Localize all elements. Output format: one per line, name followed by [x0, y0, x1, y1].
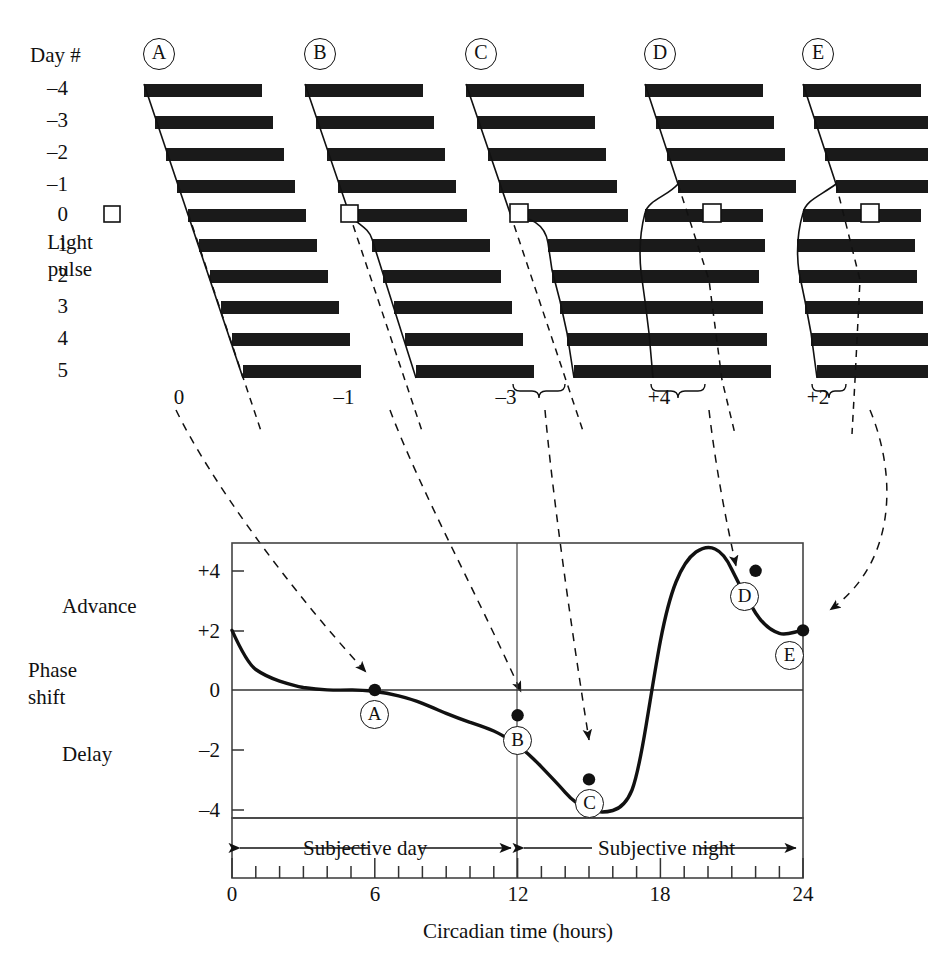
data-point-C: [583, 773, 595, 785]
x-tick-label-12: 12: [498, 884, 538, 905]
y-tick-label-minus4: –4: [176, 800, 220, 821]
x-tick-label-18: 18: [640, 884, 680, 905]
prc-point-label-B: B: [503, 726, 532, 755]
subjective-day-label: Subjective day: [303, 838, 427, 859]
x-tick-label-24: 24: [783, 884, 823, 905]
prc-point-label-D: D: [730, 582, 759, 611]
phase-shift-label-line1: Phase: [28, 660, 77, 681]
x-tick-label-0: 0: [212, 884, 252, 905]
y-tick-label-plus2: +2: [176, 621, 220, 642]
connector-E: [830, 410, 887, 610]
phase-response-curve-plot: [0, 0, 928, 957]
data-point-A: [369, 684, 381, 696]
delay-label: Delay: [62, 744, 112, 765]
data-point-B: [511, 709, 523, 721]
connector-B: [390, 410, 521, 692]
subjective-night-label: Subjective night: [598, 838, 735, 859]
x-ticks: [232, 858, 803, 878]
phase-shift-label-line2: shift: [28, 687, 65, 708]
y-tick-label-zero: 0: [176, 680, 220, 701]
advance-label: Advance: [62, 596, 137, 617]
prc-point-label-E: E: [775, 641, 804, 670]
data-point-D: [749, 565, 761, 577]
prc-point-label-A: A: [360, 700, 389, 729]
data-point-E: [797, 624, 809, 636]
prc-point-label-C: C: [575, 789, 604, 818]
circadian-phase-response-figure: Day # –4 –3 –2 –1 0 1 2 3 4 5 Light puls…: [0, 0, 928, 957]
y-tick-label-minus2: –2: [176, 740, 220, 761]
y-tick-label-plus4: +4: [176, 561, 220, 582]
x-axis-title: Circadian time (hours): [318, 921, 718, 942]
x-tick-label-6: 6: [355, 884, 395, 905]
